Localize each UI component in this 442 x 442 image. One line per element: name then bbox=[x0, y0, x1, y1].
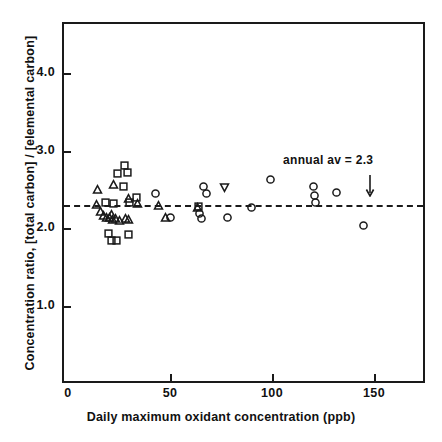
data-point-square bbox=[113, 169, 122, 178]
data-point-circle bbox=[202, 189, 211, 198]
data-point-circle bbox=[197, 214, 206, 223]
data-point-triangle-down bbox=[220, 183, 229, 192]
data-point-circle bbox=[247, 203, 256, 212]
data-point-circle bbox=[166, 213, 175, 222]
data-point-square bbox=[112, 236, 121, 245]
data-point-circle bbox=[151, 189, 160, 198]
data-point-triangle-up bbox=[93, 185, 102, 194]
y-axis-title: Concentration ratio, [total carbon] / [e… bbox=[23, 23, 37, 383]
data-point-circle bbox=[359, 221, 368, 230]
down-arrow-icon bbox=[363, 175, 377, 197]
y-tick-1.0 bbox=[62, 306, 71, 308]
data-point-circle bbox=[309, 182, 318, 191]
chart-figure: 1.02.03.04.0 050100150 annual av = 2.3 D… bbox=[0, 0, 442, 442]
data-point-circle bbox=[223, 213, 232, 222]
y-tick-3.0 bbox=[62, 151, 71, 153]
data-point-square bbox=[109, 199, 118, 208]
y-tick-4.0 bbox=[62, 73, 71, 75]
data-point-triangle-up bbox=[124, 215, 133, 224]
data-point-square bbox=[119, 182, 128, 191]
data-point-square bbox=[124, 230, 133, 239]
data-point-circle bbox=[311, 198, 320, 207]
data-point-triangle-up bbox=[109, 180, 118, 189]
data-point-triangle-up bbox=[107, 210, 116, 219]
data-point-circle bbox=[266, 175, 275, 184]
x-tick-label-100: 100 bbox=[247, 386, 297, 400]
x-tick-label-50: 50 bbox=[145, 386, 195, 400]
data-point-circle bbox=[332, 188, 341, 197]
x-tick-label-0: 0 bbox=[43, 386, 93, 400]
data-point-square bbox=[132, 193, 141, 202]
x-tick-100 bbox=[272, 374, 274, 383]
data-point-square bbox=[123, 168, 132, 177]
x-tick-label-150: 150 bbox=[349, 386, 399, 400]
y-tick-2.0 bbox=[62, 228, 71, 230]
data-point-triangle-up bbox=[154, 201, 163, 210]
annual-average-label: annual av = 2.3 bbox=[283, 153, 373, 167]
x-tick-150 bbox=[374, 374, 376, 383]
x-tick-50 bbox=[170, 374, 172, 383]
x-axis-title: Daily maximum oxidant concentration (ppb… bbox=[0, 410, 442, 424]
